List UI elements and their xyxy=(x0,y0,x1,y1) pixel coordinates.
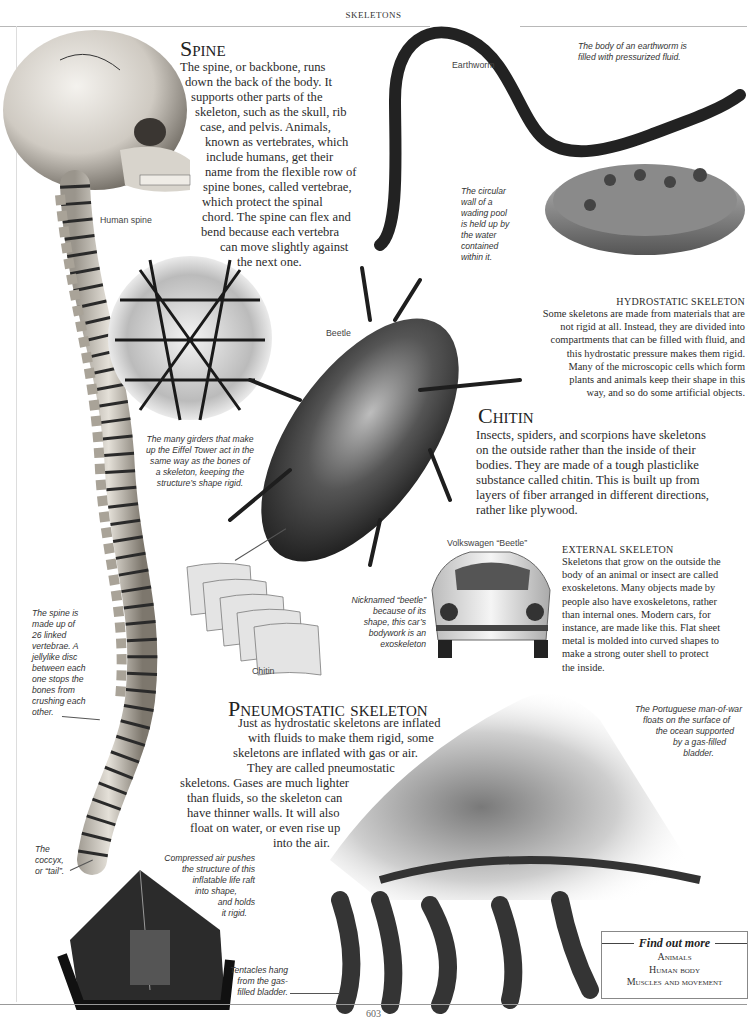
spine-line: case, and pelvis. Animals, xyxy=(180,120,400,135)
caption-line: it rigid. xyxy=(150,908,255,919)
external-line: make a strong outer shell to protect xyxy=(562,647,721,660)
eiffel-tower-image xyxy=(108,256,272,420)
spine-body: The spine, or backbone, runs down the ba… xyxy=(180,60,400,270)
spine-line: chord. The spine can flex and xyxy=(180,210,400,225)
tentacles-caption: Tentacles hang from the gas- filled blad… xyxy=(210,965,288,998)
pneumostatic-body: Just as hydrostatic skeletons are inflat… xyxy=(180,716,450,851)
caption-line: floats on the surface of xyxy=(606,715,742,726)
caption-line: one stops the xyxy=(32,674,86,685)
caption-line: other. xyxy=(32,707,86,718)
pneumostatic-line: Just as hydrostatic skeletons are inflat… xyxy=(180,716,450,731)
chitin-line: Insects, spiders, and scorpions have ske… xyxy=(476,428,709,443)
pneumostatic-line: with fluids to make them rigid, some xyxy=(180,731,450,746)
spine-line: known as vertebrates, which xyxy=(180,135,400,150)
page-number: 603 xyxy=(0,1008,747,1019)
caption-line: coccyx, xyxy=(35,855,64,866)
caption-line: the ocean supported xyxy=(606,726,742,737)
pneumostatic-line: into the air. xyxy=(180,836,450,851)
spine-line: spine bones, called vertebrae, xyxy=(180,180,400,195)
external-section: EXTERNAL SKELETON Skeletons that grow on… xyxy=(562,544,721,674)
chitin-line: rather like plywood. xyxy=(476,503,709,518)
find-out-more-title: Find out more xyxy=(639,936,710,951)
caption-line: bladder. xyxy=(606,748,742,759)
caption-line: or “tail”. xyxy=(35,866,64,877)
vw-caption: Nicknamed “beetle” because of its shape,… xyxy=(330,595,426,650)
hydrostatic-section: HYDROSTATIC SKELETON Some skeletons are … xyxy=(500,296,745,399)
caption-line: jellylike disc xyxy=(32,652,86,663)
link-human-body[interactable]: Human body xyxy=(602,964,747,977)
caption-line: Compressed air pushes xyxy=(150,853,255,864)
hydrostatic-line: compartments that can be filled with flu… xyxy=(500,333,745,346)
caption-line: 26 linked xyxy=(32,630,86,641)
spine-line: include humans, get their xyxy=(180,150,400,165)
spine-heading: Spine xyxy=(180,38,226,60)
caption-line: filled bladder. xyxy=(210,987,288,998)
hydrostatic-line: Many of the microscopic cells which form xyxy=(500,360,745,373)
spine-line: The spine, or backbone, runs xyxy=(180,60,400,75)
spine-line: which protect the spinal xyxy=(180,195,400,210)
human-spine-label: Human spine xyxy=(100,215,152,225)
caption-line: made up of xyxy=(32,619,86,630)
pneumostatic-line: skeletons. Gases are much lighter xyxy=(180,776,450,791)
footer-rule xyxy=(0,1004,747,1005)
caption-line: The circular xyxy=(461,186,509,197)
caption-line: wall of a xyxy=(461,197,509,208)
hydrostatic-line: plants and animals keep their shape in t… xyxy=(500,373,745,386)
hydrostatic-line: way, and so do some artificial objects. xyxy=(500,386,745,399)
caption-line: structure’s shape rigid. xyxy=(120,478,280,489)
link-muscles-and-movement[interactable]: Muscles and movement xyxy=(602,976,747,989)
caption-line: The many girders that make xyxy=(120,434,280,445)
life-raft-caption: Compressed air pushes the structure of t… xyxy=(150,853,255,919)
link-animals[interactable]: Animals xyxy=(602,951,747,964)
beetle-label: Beetle xyxy=(326,328,351,338)
caption-line: from the gas- xyxy=(210,976,288,987)
caption-line: into shape, xyxy=(150,886,255,897)
caption-line: bones from xyxy=(32,685,86,696)
caption-line: is held up by xyxy=(461,219,509,230)
pneumostatic-line: than fluids, so the skeleton can xyxy=(180,791,450,806)
external-line: body of an animal or insect are called xyxy=(562,568,721,581)
find-out-more-title-row: Find out more xyxy=(602,936,747,951)
find-out-more-box: Find out more Animals Human body Muscles… xyxy=(601,931,748,999)
caption-line: same way as the bones of xyxy=(120,456,280,467)
wading-pool-image xyxy=(545,164,745,255)
vw-beetle-image xyxy=(432,552,550,658)
caption-line: filled with pressurized fluid. xyxy=(578,52,687,63)
caption-line: Tentacles hang xyxy=(210,965,288,976)
chitin-heading: Chitin xyxy=(478,405,534,427)
caption-line: The Portuguese man-of-war xyxy=(606,704,742,715)
caption-line: wading pool xyxy=(461,208,509,219)
chitin-line: on the outside rather than the inside of… xyxy=(476,443,709,458)
external-line: Skeletons that grow on the outside the xyxy=(562,555,721,568)
caption-line: The xyxy=(35,844,64,855)
external-line: people also have exoskeletons, rather xyxy=(562,595,721,608)
external-body: Skeletons that grow on the outside the b… xyxy=(562,555,721,674)
vertebrae-caption: The spine is made up of 26 linked verteb… xyxy=(32,608,86,718)
caption-line: up the Eiffel Tower act in the xyxy=(120,445,280,456)
chitin-line: substance called chitin. This is built u… xyxy=(476,473,709,488)
caption-line: because of its xyxy=(330,606,426,617)
spine-line: name from the flexible row of xyxy=(180,165,400,180)
chitin-body: Insects, spiders, and scorpions have ske… xyxy=(476,428,709,518)
chitin-line: bodies. They are made of a tough plastic… xyxy=(476,458,709,473)
coccyx-caption: The coccyx, or “tail”. xyxy=(35,844,64,877)
pneumostatic-line: They are called pneumostatic xyxy=(180,761,450,776)
external-line: instance, are made like this. Flat sheet xyxy=(562,621,721,634)
hydrostatic-line: not rigid at all. Instead, they are divi… xyxy=(500,320,745,333)
caption-line: by a gas-filled xyxy=(606,737,742,748)
caption-line: within it. xyxy=(461,252,509,263)
caption-line: The spine is xyxy=(32,608,86,619)
chitin-line: layers of fiber arranged in different di… xyxy=(476,488,709,503)
spine-line: skeleton, such as the skull, rib xyxy=(180,105,400,120)
chitin-diagram-label: Chitin xyxy=(252,666,275,676)
hydrostatic-line: this hydrostatic pressure makes them rig… xyxy=(500,347,745,360)
caption-line: between each xyxy=(32,663,86,674)
hydrostatic-line: Some skeletons are made from materials t… xyxy=(500,307,745,320)
external-heading: EXTERNAL SKELETON xyxy=(562,544,721,555)
caption-line: inflatable life raft xyxy=(150,875,255,886)
spine-line: down the back of the body. It xyxy=(180,75,400,90)
caption-line: bodywork is an xyxy=(330,628,426,639)
caption-line: shape, this car’s xyxy=(330,617,426,628)
title-rule-right xyxy=(715,943,747,944)
caption-line: the structure of this xyxy=(150,864,255,875)
